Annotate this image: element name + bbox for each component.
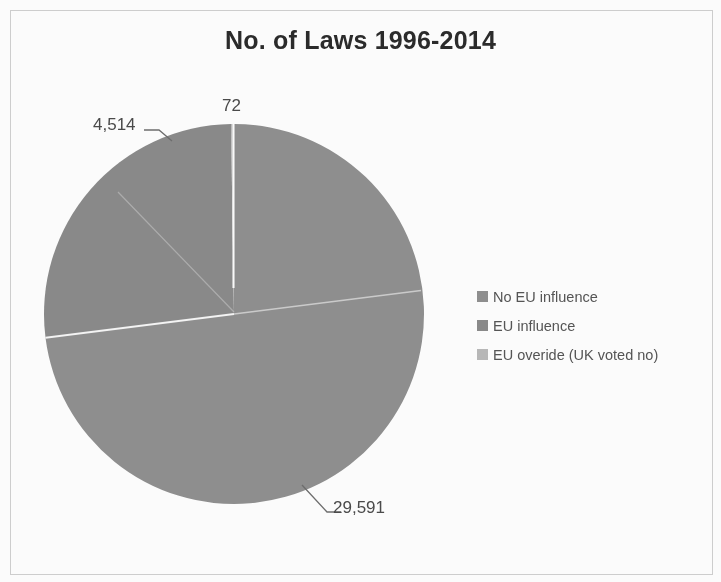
legend-swatch-icon xyxy=(477,320,488,331)
legend-swatch-icon xyxy=(477,349,488,360)
data-label-eu-influence: 4,514 xyxy=(93,115,136,135)
data-label-no-eu-influence: 29,591 xyxy=(333,498,385,518)
legend-item-no-eu-influence[interactable]: No EU influence xyxy=(477,282,702,311)
chart-legend: No EU influence EU influence EU overide … xyxy=(477,282,702,369)
pie-slice-eu-influence[interactable] xyxy=(44,124,234,338)
legend-swatch-icon xyxy=(477,291,488,302)
data-label-eu-overide: 72 xyxy=(222,96,241,116)
legend-item-label: EU overide (UK voted no) xyxy=(493,347,658,363)
legend-item-label: EU influence xyxy=(493,318,575,334)
legend-item-eu-overide[interactable]: EU overide (UK voted no) xyxy=(477,340,702,369)
legend-item-label: No EU influence xyxy=(493,289,598,305)
screenshot-canvas: No. of Laws 1996-2014 72 4,514 29,591 xyxy=(0,0,721,582)
legend-item-eu-influence[interactable]: EU influence xyxy=(477,311,702,340)
